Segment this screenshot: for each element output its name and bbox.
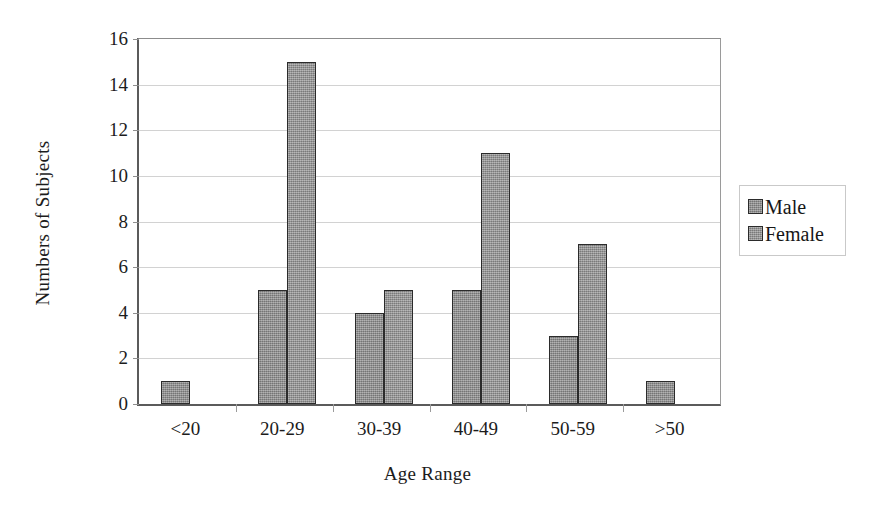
y-axis-title: Numbers of Subjects bbox=[32, 63, 54, 383]
y-tick-label: 10 bbox=[109, 164, 128, 186]
bar-male-3 bbox=[452, 290, 481, 404]
legend-item-male[interactable]: Male bbox=[748, 193, 839, 220]
x-category-label-1: 20-29 bbox=[234, 418, 331, 440]
legend-swatch-icon bbox=[748, 226, 763, 241]
bar-male-2 bbox=[355, 313, 384, 404]
y-tick-label: 16 bbox=[109, 28, 128, 50]
legend-item-female[interactable]: Female bbox=[748, 220, 839, 247]
y-tick-mark bbox=[133, 404, 139, 405]
x-tick-mark bbox=[526, 404, 527, 412]
bar-male-5 bbox=[646, 381, 675, 404]
y-tick-label: 14 bbox=[109, 73, 128, 95]
plot-area: 0246810121416 bbox=[137, 38, 721, 406]
bar-male-4 bbox=[549, 336, 578, 404]
bar-female-4 bbox=[578, 244, 607, 404]
y-tick-label: 2 bbox=[119, 347, 129, 369]
y-tick-label: 12 bbox=[109, 119, 128, 141]
x-axis-title: Age Range bbox=[137, 463, 718, 485]
legend-swatch-icon bbox=[748, 199, 763, 214]
bar-female-1 bbox=[287, 62, 316, 404]
bar-female-2 bbox=[384, 290, 413, 404]
x-tick-mark bbox=[430, 404, 431, 412]
bar-male-1 bbox=[258, 290, 287, 404]
bar-chart-figure: Numbers of Subjects 0246810121416 <2020-… bbox=[0, 0, 885, 515]
x-category-label-5: >50 bbox=[621, 418, 718, 440]
y-tick-label: 8 bbox=[119, 210, 129, 232]
legend-label: Female bbox=[765, 224, 824, 244]
x-tick-mark bbox=[333, 404, 334, 412]
x-category-label-4: 50-59 bbox=[524, 418, 621, 440]
x-category-label-0: <20 bbox=[137, 418, 234, 440]
bar-male-0 bbox=[161, 381, 190, 404]
x-category-label-3: 40-49 bbox=[428, 418, 525, 440]
bars-layer bbox=[139, 39, 720, 404]
x-tick-mark bbox=[236, 404, 237, 412]
x-tick-mark bbox=[623, 404, 624, 412]
legend-label: Male bbox=[765, 197, 806, 217]
chart-legend: MaleFemale bbox=[739, 185, 846, 256]
y-tick-label: 4 bbox=[119, 301, 129, 323]
y-tick-label: 6 bbox=[119, 256, 129, 278]
x-category-label-2: 30-39 bbox=[331, 418, 428, 440]
y-tick-label: 0 bbox=[119, 393, 129, 415]
bar-female-3 bbox=[481, 153, 510, 404]
